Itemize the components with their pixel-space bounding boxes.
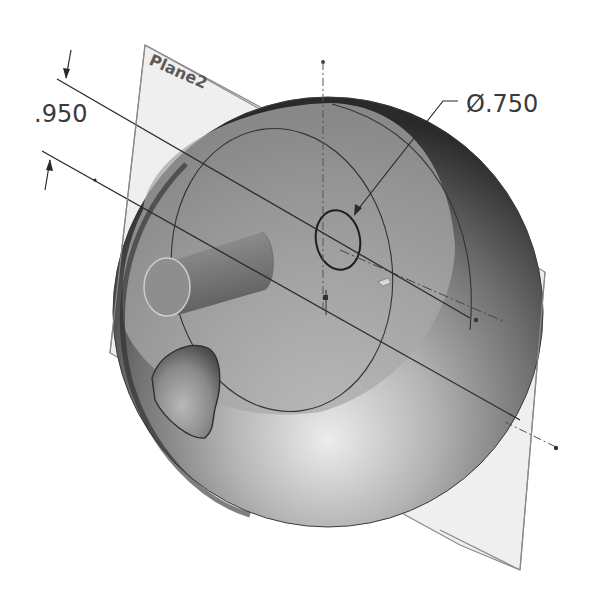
dimension-diameter-label[interactable]: Ø.750	[466, 90, 538, 118]
cad-drawing-canvas: .950 Ø.750 Plane2	[0, 0, 594, 608]
dimension-950-label[interactable]: .950	[34, 100, 87, 128]
arrow-down-icon	[63, 68, 70, 79]
cylinder-end-face[interactable]	[144, 258, 190, 316]
arrow-up-icon	[46, 159, 53, 171]
